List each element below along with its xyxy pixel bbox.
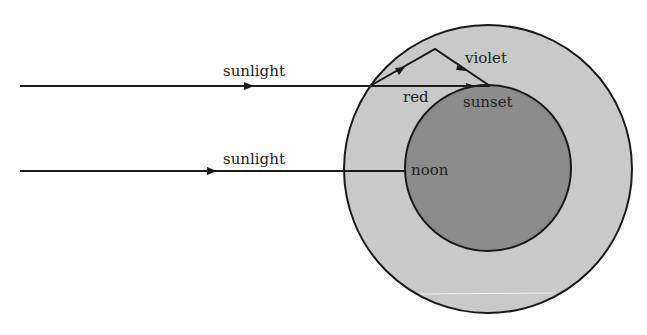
label-sunlight-bottom: sunlight	[223, 150, 285, 168]
arrow-icon	[207, 167, 217, 175]
label-violet: violet	[464, 49, 507, 67]
atmosphere-scattering-diagram: sunlight violet red sunset sunlight noon	[0, 0, 647, 335]
arrow-icon	[244, 82, 254, 90]
label-sunlight-top: sunlight	[223, 62, 285, 80]
label-noon: noon	[411, 161, 449, 179]
label-red: red	[403, 88, 429, 106]
label-sunset: sunset	[463, 93, 513, 111]
